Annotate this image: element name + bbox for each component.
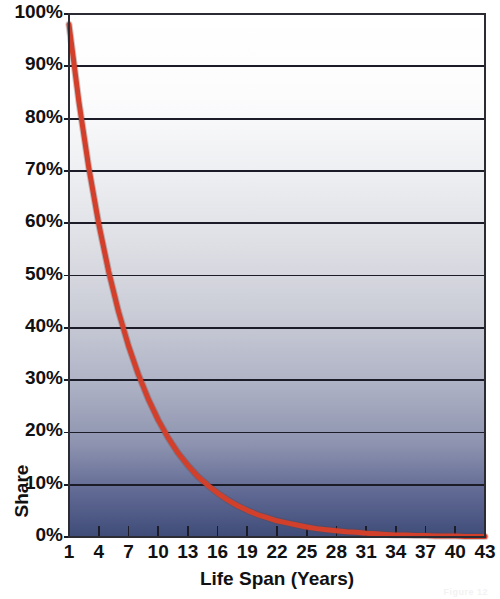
figure-caption: Figure 12 bbox=[443, 587, 488, 597]
